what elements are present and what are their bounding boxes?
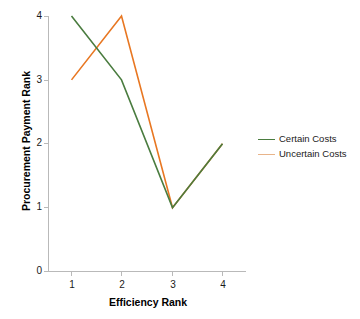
x-axis-title: Efficiency Rank: [48, 296, 248, 308]
x-tick-label-3: 3: [163, 280, 183, 290]
line-chart: 4 3 2 1 0 1 2 3 4 Procurement Payment Ra…: [0, 0, 360, 319]
legend-item-uncertain-costs: Uncertain Costs: [258, 148, 347, 160]
legend-swatch-uncertain-costs: [258, 154, 275, 155]
x-axis-ticks: [72, 272, 223, 277]
x-tick-label-2: 2: [112, 280, 132, 290]
y-tick-label-0: 0: [26, 266, 42, 276]
chart-legend: Certain Costs Uncertain Costs: [258, 133, 347, 160]
y-tick-label-4: 4: [26, 11, 42, 21]
x-tick-label-1: 1: [62, 280, 82, 290]
legend-label-uncertain-costs: Uncertain Costs: [279, 149, 347, 159]
y-axis-ticks: [44, 17, 49, 272]
legend-label-certain-costs: Certain Costs: [279, 134, 337, 144]
x-tick-label-4: 4: [213, 280, 233, 290]
legend-swatch-certain-costs: [258, 139, 275, 140]
y-axis-title: Procurement Payment Rank: [20, 41, 32, 241]
legend-item-certain-costs: Certain Costs: [258, 133, 347, 145]
